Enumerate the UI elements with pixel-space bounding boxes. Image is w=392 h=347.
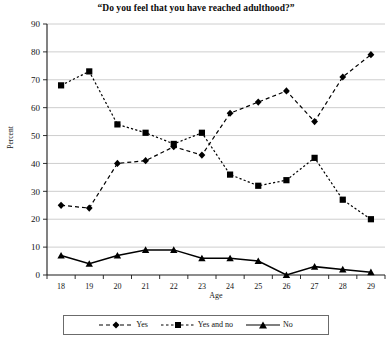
data-point <box>283 177 289 183</box>
x-axis-label: Age <box>47 291 385 300</box>
chart-legend: Yes Yes and no No <box>63 315 329 335</box>
data-point <box>57 252 64 259</box>
data-point <box>58 202 65 209</box>
chart-figure: “Do you feel that you have reached adult… <box>0 0 392 347</box>
legend-marker-triangle-icon <box>246 320 280 330</box>
svg-text:22: 22 <box>170 282 178 291</box>
svg-text:40: 40 <box>31 159 41 169</box>
data-point <box>283 87 290 94</box>
data-point <box>199 130 205 136</box>
data-point <box>199 151 206 158</box>
svg-text:21: 21 <box>142 282 150 291</box>
x-tick-labels: 181920212223242526272829 <box>57 282 375 291</box>
data-point <box>227 172 233 178</box>
gridlines <box>47 24 385 275</box>
svg-text:80: 80 <box>31 47 41 57</box>
series-yes <box>58 51 375 212</box>
svg-text:90: 90 <box>31 19 41 29</box>
svg-text:70: 70 <box>31 75 41 85</box>
svg-text:28: 28 <box>339 282 347 291</box>
data-series-layer <box>57 51 374 278</box>
data-point <box>86 204 93 211</box>
svg-text:30: 30 <box>31 187 41 197</box>
data-point <box>114 160 121 167</box>
svg-text:20: 20 <box>31 214 41 224</box>
legend-label-yes: Yes <box>136 321 148 330</box>
legend-item-yes-and-no: Yes and no <box>161 320 233 330</box>
svg-text:10: 10 <box>31 242 41 252</box>
series-yes-and-no <box>58 68 374 222</box>
data-point <box>368 216 374 222</box>
series-no <box>57 246 374 278</box>
y-tick-labels: 0102030405060708090 <box>31 19 41 280</box>
data-point <box>311 118 318 125</box>
data-point <box>255 183 261 189</box>
data-point <box>255 98 262 105</box>
svg-text:23: 23 <box>198 282 206 291</box>
axis-lines <box>47 24 385 275</box>
legend-item-no: No <box>246 320 293 330</box>
legend-label-yes-and-no: Yes and no <box>198 321 233 330</box>
data-point <box>142 130 148 136</box>
legend-label-no: No <box>283 321 293 330</box>
data-point <box>114 121 120 127</box>
data-point <box>171 141 177 147</box>
legend-marker-square-icon <box>161 320 195 330</box>
svg-text:0: 0 <box>36 270 41 280</box>
svg-text:18: 18 <box>57 282 65 291</box>
data-point <box>340 197 346 203</box>
svg-text:19: 19 <box>85 282 93 291</box>
svg-text:24: 24 <box>226 282 234 291</box>
svg-text:50: 50 <box>31 131 41 141</box>
svg-text:29: 29 <box>367 282 375 291</box>
svg-text:27: 27 <box>311 282 319 291</box>
svg-text:20: 20 <box>113 282 121 291</box>
data-point <box>86 68 92 74</box>
data-point <box>311 155 317 161</box>
svg-text:25: 25 <box>254 282 262 291</box>
svg-text:26: 26 <box>282 282 290 291</box>
legend-item-yes: Yes <box>99 320 148 330</box>
svg-text:60: 60 <box>31 103 41 113</box>
x-tick-marks <box>47 275 385 279</box>
y-tick-marks <box>43 24 47 275</box>
legend-marker-diamond-icon <box>99 320 133 330</box>
data-point <box>58 82 64 88</box>
